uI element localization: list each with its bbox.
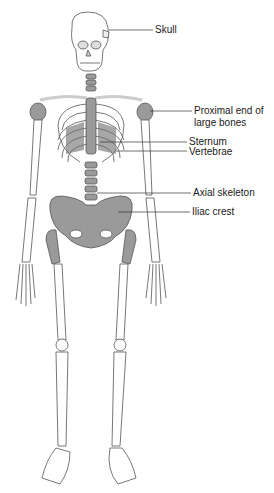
label-proximal-end-line1: Proximal end of	[194, 105, 263, 116]
label-proximal-end-line2: large bones	[194, 117, 246, 128]
label-vertebrae: Vertebrae	[189, 146, 232, 157]
label-axial-skeleton: Axial skeleton	[193, 187, 255, 198]
label-skull: Skull	[155, 24, 177, 35]
pelvis	[50, 196, 133, 248]
skull	[72, 12, 110, 71]
skeleton-figure	[0, 0, 274, 493]
label-iliac-crest: Iliac crest	[192, 206, 234, 217]
